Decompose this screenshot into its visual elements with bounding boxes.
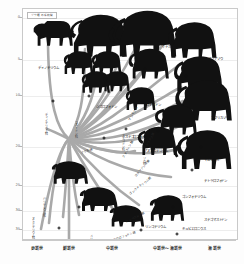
figure-title-box: ゾウ類の系統樹	[27, 12, 57, 19]
phylogeny-plot: ディノテリウムアメリカマストドンジゴロフォドンステゴドンステゴロフォドンケナガマ…	[22, 8, 238, 240]
branch-group-label: アメベロドン類	[125, 212, 145, 224]
figure-root: 051020253035	[0, 0, 244, 264]
epoch-label-0: 更新世	[31, 245, 43, 251]
y-axis: 051020253035	[0, 8, 22, 238]
branch-group-label: ゾウ形類	[80, 148, 92, 155]
x-axis-epochs: 更新世鮮新世中新世中新世〜漸新世漸新世	[22, 240, 236, 261]
epoch-label-1: 鮮新世	[63, 245, 75, 251]
epoch-label-3: 中新世〜漸新世	[153, 245, 182, 251]
branch-group-label: ゴンフォテリウム類	[129, 177, 152, 196]
branch-group-label: マンモス類	[129, 107, 139, 122]
epoch-label-2: 中新世	[106, 245, 118, 251]
figure-title: ゾウ類の系統樹	[31, 14, 53, 17]
branch-group-label: エレファス類	[144, 132, 156, 149]
branch-group-labels: ゾウ形類マンモス類ステゴドン類エレファス類ロクソドンタ類ゴンフォテリウム類アメベ…	[23, 9, 237, 239]
branch-group-label: ステゴドン類	[122, 141, 133, 158]
epoch-label-4: 漸新世	[208, 245, 220, 251]
branch-group-label: コロロフォドン類	[112, 232, 136, 240]
branch-group-label: ロクソドンタ類	[135, 159, 151, 177]
